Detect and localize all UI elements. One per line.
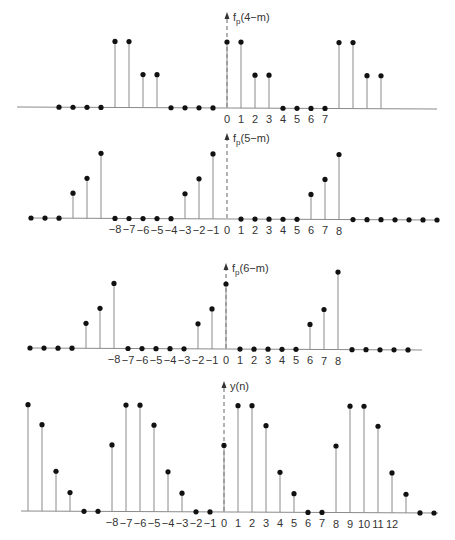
- stem-dot: [53, 469, 58, 474]
- tick-label: −2: [190, 517, 203, 529]
- tick-label: 7: [322, 113, 328, 125]
- stem-dot: [265, 347, 270, 352]
- tick-label: −4: [164, 354, 177, 366]
- stem-dot: [403, 492, 408, 497]
- tick-label: 1: [238, 113, 244, 125]
- stem-dot: [28, 215, 33, 220]
- stem-dot: [140, 216, 145, 221]
- stem-dot: [167, 346, 172, 351]
- panel-label: fp(6−m): [232, 262, 269, 277]
- tick-label: 2: [252, 224, 258, 236]
- stem-dot: [70, 191, 75, 196]
- stem-dot: [209, 306, 214, 311]
- stem-dot: [98, 151, 103, 156]
- tick-label: 1: [238, 224, 244, 236]
- stem-dot: [139, 346, 144, 351]
- tick-label: 1: [237, 354, 243, 366]
- stem-dot: [392, 217, 397, 222]
- stem-dot: [112, 39, 117, 44]
- tick-label: 3: [266, 224, 272, 236]
- stem-dot: [263, 423, 268, 428]
- stem-dot: [196, 176, 201, 181]
- stem-dot: [221, 443, 226, 448]
- stem-dot: [168, 105, 173, 110]
- stem-dot: [266, 73, 271, 78]
- tick-label: 2: [252, 113, 258, 125]
- tick-label: 4: [280, 224, 286, 236]
- tick-label: −3: [179, 224, 192, 236]
- tick-label: 6: [308, 224, 314, 236]
- stem-dot: [210, 151, 215, 156]
- stem-dot: [391, 347, 396, 352]
- tick-label: −7: [122, 354, 135, 366]
- stem-dot: [41, 345, 46, 350]
- tick-label: 4: [277, 517, 283, 529]
- stem-panel-2: fp(6−m)−8−7−6−5−4−3−2−1012345678: [27, 262, 422, 367]
- stem-dot: [126, 39, 131, 44]
- stem-dot: [336, 40, 341, 45]
- stem-dot: [378, 73, 383, 78]
- stem-dot: [168, 216, 173, 221]
- stem-dot: [39, 422, 44, 427]
- stem-dot: [350, 40, 355, 45]
- tick-label: 4: [280, 113, 286, 125]
- x-axis: [31, 218, 437, 220]
- stem-dot: [55, 346, 60, 351]
- stem-dot: [210, 105, 215, 110]
- tick-label: −1: [206, 354, 219, 366]
- stem-dot: [84, 176, 89, 181]
- stem-dot: [420, 217, 425, 222]
- stem-dot: [81, 509, 86, 514]
- stem-dot: [434, 217, 439, 222]
- tick-label: 5: [294, 224, 300, 236]
- tick-label: −5: [151, 224, 164, 236]
- tick-label: 7: [321, 355, 327, 367]
- stem-dot: [252, 73, 257, 78]
- tick-label: 5: [291, 517, 297, 529]
- tick-label: −4: [165, 224, 178, 236]
- stem-dot: [389, 470, 394, 475]
- stem-dot: [153, 346, 158, 351]
- tick-label: 0: [224, 113, 230, 125]
- tick-label: −2: [193, 224, 206, 236]
- tick-label: −8: [109, 223, 122, 235]
- tick-label: 3: [263, 517, 269, 529]
- stem-dot: [56, 105, 61, 110]
- stem-dot: [154, 72, 159, 77]
- stem-dot: [375, 424, 380, 429]
- stem-dot: [293, 347, 298, 352]
- arrow-up-icon: [224, 263, 229, 270]
- stem-dot: [322, 106, 327, 111]
- stem-dot: [123, 403, 128, 408]
- stem-dot: [335, 269, 340, 274]
- stem-dot: [235, 403, 240, 408]
- tick-label: −4: [162, 517, 175, 529]
- stem-dot: [364, 217, 369, 222]
- tick-label: −8: [108, 353, 121, 365]
- stem-dot: [112, 216, 117, 221]
- tick-label: −2: [192, 354, 205, 366]
- stem-dot: [67, 490, 72, 495]
- stem-dot: [83, 321, 88, 326]
- stem-dot: [111, 281, 116, 286]
- stem-dot: [137, 403, 142, 408]
- stem-dot: [319, 510, 324, 515]
- stem-dot: [406, 217, 411, 222]
- stem-dot: [308, 192, 313, 197]
- tick-label: 6: [305, 517, 311, 529]
- stem-dot: [84, 105, 89, 110]
- stem-dot: [364, 73, 369, 78]
- stem-panel-0: fp(4−m)01234567: [17, 11, 437, 125]
- stem-dot: [308, 106, 313, 111]
- tick-label: −6: [136, 354, 149, 366]
- tick-label: −7: [120, 517, 133, 529]
- tick-label: 8: [335, 355, 341, 367]
- stem-dot: [405, 347, 410, 352]
- panel-label: fp(5−m): [233, 132, 270, 147]
- tick-label: 2: [251, 354, 257, 366]
- stem-dot: [431, 510, 436, 515]
- stem-dot: [237, 346, 242, 351]
- stem-dot: [154, 216, 159, 221]
- tick-label: 10: [358, 518, 370, 530]
- tick-label: 0: [223, 354, 229, 366]
